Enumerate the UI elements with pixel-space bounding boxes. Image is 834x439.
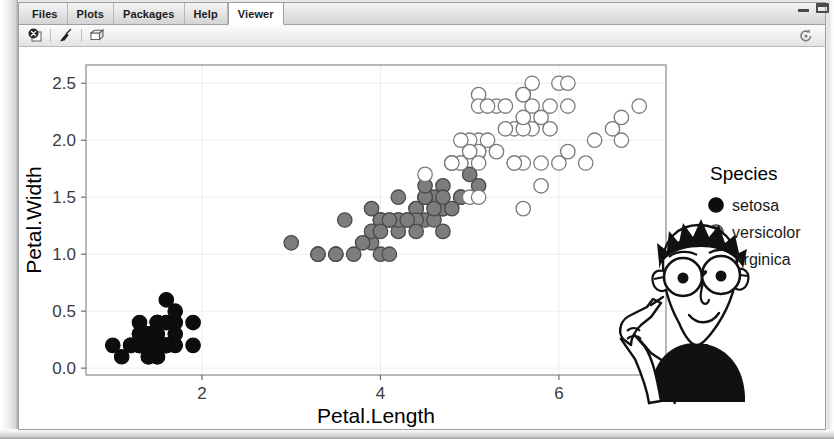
data-point <box>427 201 441 215</box>
data-point <box>534 179 548 193</box>
legend-marker-setosa <box>709 198 723 212</box>
tab-viewer[interactable]: Viewer <box>228 3 284 25</box>
data-point <box>329 247 343 261</box>
data-point <box>498 99 512 113</box>
x-axis-tick-label: 6 <box>554 384 563 403</box>
data-point <box>311 247 325 261</box>
data-point <box>578 156 592 170</box>
y-axis-tick-label: 1.5 <box>52 188 76 207</box>
data-point <box>498 122 512 136</box>
x-axis-tick-label: 4 <box>376 384 385 403</box>
refresh-icon[interactable] <box>795 27 817 45</box>
data-point <box>587 133 601 147</box>
tab-files[interactable]: Files <box>23 3 68 24</box>
data-point <box>186 315 200 329</box>
pane-tab-bar: Files Plots Packages Help Viewer <box>19 3 825 25</box>
minimize-icon[interactable] <box>796 3 811 14</box>
data-point <box>534 156 548 170</box>
legend-title: Species <box>710 163 778 184</box>
data-point <box>186 338 200 352</box>
data-point <box>480 133 494 147</box>
data-point <box>543 99 557 113</box>
data-point <box>106 338 120 352</box>
y-axis-tick-label: 0.0 <box>52 359 76 378</box>
data-point <box>284 236 298 250</box>
viewer-window: Files Plots Packages Help Viewer <box>0 0 834 439</box>
data-point <box>436 224 450 238</box>
tab-plots[interactable]: Plots <box>68 3 114 24</box>
x-axis-tick-label: 2 <box>197 384 206 403</box>
viewer-toolbar <box>19 25 825 47</box>
data-point <box>418 167 432 181</box>
data-point <box>382 213 396 227</box>
data-point <box>507 156 521 170</box>
data-point <box>561 99 575 113</box>
data-point <box>159 293 173 307</box>
data-point <box>614 110 628 124</box>
window-controls <box>796 3 830 14</box>
x-axis-title: Petal.Length <box>317 404 435 427</box>
data-point <box>141 338 155 352</box>
data-point <box>480 99 494 113</box>
broom-icon[interactable] <box>55 27 77 45</box>
legend-label-setosa[interactable]: setosa <box>732 197 779 214</box>
tab-help[interactable]: Help <box>185 3 228 24</box>
tab-packages[interactable]: Packages <box>114 3 185 24</box>
data-point <box>471 190 485 204</box>
data-point <box>400 213 414 227</box>
toolbar-separator-1 <box>50 29 51 42</box>
data-point <box>561 76 575 90</box>
viewer-pane: Files Plots Packages Help Viewer <box>18 2 826 430</box>
window-frame-right <box>828 0 834 439</box>
y-axis-tick-label: 2.5 <box>52 74 76 93</box>
window-frame-bottom <box>0 429 834 439</box>
y-axis-tick-label: 2.0 <box>52 131 76 150</box>
y-axis-tick-label: 0.5 <box>52 302 76 321</box>
toolbar-separator-2 <box>81 29 82 42</box>
data-point <box>338 213 352 227</box>
data-point <box>382 247 396 261</box>
publish-icon[interactable] <box>86 27 108 45</box>
data-point <box>516 201 530 215</box>
y-axis-title: Petal.Width <box>22 166 45 273</box>
plot-viewport: 0.00.51.01.52.02.5246 Petal.Width Petal.… <box>19 47 825 429</box>
tab-bar-filler <box>284 3 825 24</box>
data-point <box>561 144 575 158</box>
legend-label-versicolor[interactable]: versicolor <box>732 224 801 241</box>
data-point <box>614 133 628 147</box>
data-point <box>632 99 646 113</box>
data-point <box>525 76 539 90</box>
iris-scatter-plot: 0.00.51.01.52.02.5246 Petal.Width Petal.… <box>19 47 825 429</box>
data-point <box>391 190 405 204</box>
data-point <box>346 247 360 261</box>
data-point <box>471 156 485 170</box>
data-point <box>516 110 530 124</box>
y-axis-tick-label: 1.0 <box>52 245 76 264</box>
window-frame-left <box>0 0 18 439</box>
clear-viewer-icon[interactable] <box>24 27 46 45</box>
data-point <box>445 156 459 170</box>
maximize-icon[interactable] <box>815 3 830 14</box>
